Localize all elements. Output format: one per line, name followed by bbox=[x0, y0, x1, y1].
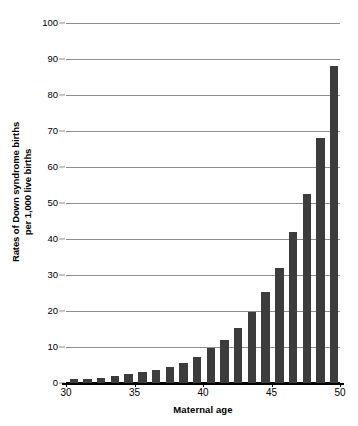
y-tick-label-20: 20 bbox=[47, 306, 58, 316]
y-tick-label-0: 0 bbox=[53, 378, 58, 388]
y-tick-label-70: 70 bbox=[47, 126, 58, 136]
bar-age-39 bbox=[193, 357, 201, 383]
bar-age-38 bbox=[179, 363, 187, 383]
y-tick-mark-90 bbox=[59, 59, 65, 60]
y-tick-label-50: 50 bbox=[47, 198, 58, 208]
bar-age-35 bbox=[138, 372, 146, 383]
y-tick-mark-40 bbox=[59, 239, 65, 240]
bar-age-33 bbox=[111, 376, 119, 383]
x-tick-label-50: 50 bbox=[334, 388, 345, 398]
y-tick-mark-30 bbox=[59, 275, 65, 276]
bar-age-46 bbox=[289, 232, 297, 383]
y-tick-mark-100 bbox=[59, 23, 65, 24]
bar-age-34 bbox=[124, 374, 132, 383]
y-tick-label-90: 90 bbox=[47, 54, 58, 64]
x-axis-title: Maternal age bbox=[66, 404, 340, 415]
bar-age-44 bbox=[261, 292, 269, 383]
bar-age-49 bbox=[330, 66, 338, 383]
y-tick-label-10: 10 bbox=[47, 342, 58, 352]
bar-age-41 bbox=[220, 340, 228, 383]
y-tick-mark-60 bbox=[59, 167, 65, 168]
bar-age-45 bbox=[275, 268, 283, 383]
bar-series bbox=[66, 23, 340, 383]
down-syndrome-rate-bar-chart: Rates of Down syndrome births per 1,000 … bbox=[0, 0, 358, 426]
x-tick-label-30: 30 bbox=[60, 388, 71, 398]
y-tick-label-100: 100 bbox=[42, 18, 58, 28]
x-tick-label-35: 35 bbox=[129, 388, 140, 398]
y-tick-label-40: 40 bbox=[47, 234, 58, 244]
y-tick-mark-80 bbox=[59, 95, 65, 96]
bar-age-36 bbox=[152, 370, 160, 383]
x-tick-label-40: 40 bbox=[197, 388, 208, 398]
bar-age-37 bbox=[166, 367, 174, 383]
bar-age-48 bbox=[316, 138, 324, 383]
y-axis-title-line-1: Rates of Down syndrome births bbox=[10, 121, 22, 261]
x-tick-label-45: 45 bbox=[266, 388, 277, 398]
y-tick-label-60: 60 bbox=[47, 162, 58, 172]
y-tick-mark-10 bbox=[59, 347, 65, 348]
y-axis-title: Rates of Down syndrome births per 1,000 … bbox=[0, 0, 44, 383]
y-tick-mark-20 bbox=[59, 311, 65, 312]
y-tick-mark-50 bbox=[59, 203, 65, 204]
bar-age-47 bbox=[303, 194, 311, 383]
plot-area: 0102030405060708090100 bbox=[66, 23, 340, 383]
bar-age-40 bbox=[207, 348, 215, 383]
y-axis-title-line-2: per 1,000 live births bbox=[22, 121, 34, 261]
y-tick-label-80: 80 bbox=[47, 90, 58, 100]
bar-age-43 bbox=[248, 312, 256, 383]
y-tick-label-30: 30 bbox=[47, 270, 58, 280]
bar-age-42 bbox=[234, 328, 242, 383]
y-tick-mark-70 bbox=[59, 131, 65, 132]
